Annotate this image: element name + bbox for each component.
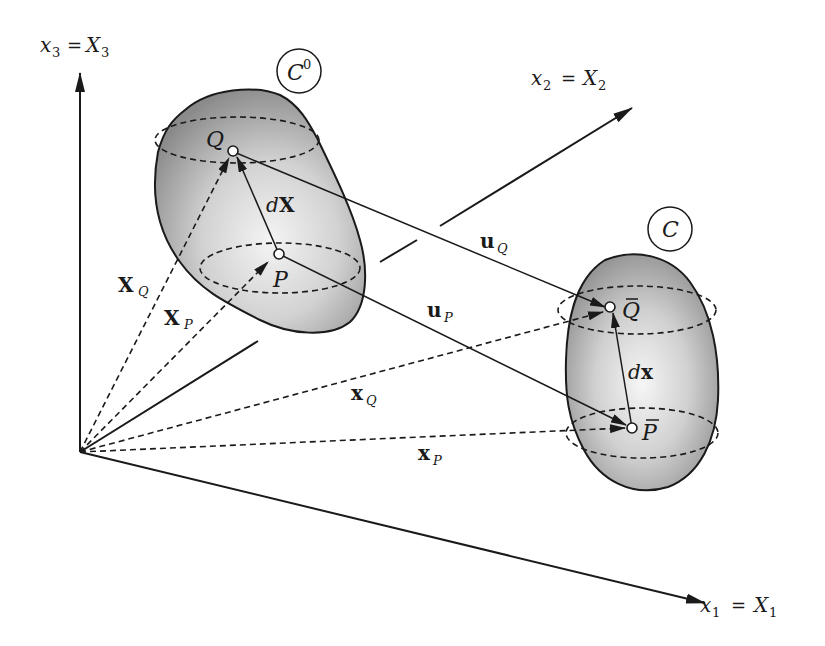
svg-text:x: x xyxy=(700,593,711,617)
svg-text:x: x xyxy=(641,360,654,384)
label-xP: x P xyxy=(418,441,442,468)
svg-text:=: = xyxy=(731,595,746,616)
point-Q-bar xyxy=(605,302,615,312)
svg-text:X: X xyxy=(279,193,295,217)
x1-axis-label: x 1 = X 1 xyxy=(700,593,777,620)
svg-text:X: X xyxy=(118,273,134,297)
svg-text:X: X xyxy=(84,33,101,57)
label-uQ: u Q xyxy=(480,229,508,256)
svg-text:1: 1 xyxy=(769,605,777,620)
svg-text:Q: Q xyxy=(497,241,508,256)
c0-superscript: 0 xyxy=(303,57,311,72)
c0-name: C xyxy=(287,60,304,85)
svg-text:=: = xyxy=(67,35,82,56)
label-Q-bar: Q xyxy=(622,298,640,323)
svg-text:P: P xyxy=(443,310,453,325)
svg-text:x: x xyxy=(351,381,364,405)
svg-text:u: u xyxy=(480,229,495,253)
svg-text:u: u xyxy=(427,298,442,322)
vector-XQ xyxy=(80,158,229,452)
label-xQ: x Q xyxy=(351,381,377,408)
svg-text:1: 1 xyxy=(712,605,720,620)
x2-axis-label: x 2 = X 2 xyxy=(531,66,606,93)
svg-text:P: P xyxy=(432,453,442,468)
svg-text:x: x xyxy=(531,66,542,90)
svg-text:Q: Q xyxy=(622,298,640,323)
label-dx: d x xyxy=(628,360,654,384)
svg-text:2: 2 xyxy=(543,78,551,93)
svg-text:X: X xyxy=(581,66,598,90)
point-Q xyxy=(228,146,238,156)
svg-text:x: x xyxy=(418,441,431,465)
svg-text:=: = xyxy=(561,68,576,89)
point-P-bar xyxy=(627,423,637,433)
svg-text:X: X xyxy=(164,306,180,330)
vector-xQ xyxy=(80,312,603,452)
config-badge-c0: C 0 xyxy=(277,49,321,93)
svg-text:X: X xyxy=(752,593,769,617)
vector-xP xyxy=(80,428,625,452)
label-uP: u P xyxy=(427,298,453,325)
deformation-diagram: C 0 C x 3 = X 3 x 2 = X 2 x 1 = X 1 Q P … xyxy=(0,0,825,646)
label-P: P xyxy=(272,267,289,292)
svg-text:d: d xyxy=(266,193,279,217)
svg-text:Q: Q xyxy=(138,284,149,299)
point-P xyxy=(274,249,284,259)
svg-text:2: 2 xyxy=(598,78,606,93)
svg-text:3: 3 xyxy=(52,45,60,60)
svg-text:3: 3 xyxy=(101,45,109,60)
x3-axis-label: x 3 = X 3 xyxy=(40,33,109,60)
svg-text:d: d xyxy=(628,360,641,384)
svg-text:Q: Q xyxy=(366,393,377,408)
label-XP: X P xyxy=(164,306,193,332)
svg-text:P: P xyxy=(183,317,193,332)
svg-text:P: P xyxy=(641,420,658,445)
label-dX: d X xyxy=(266,193,295,217)
label-P-bar: P xyxy=(641,420,659,445)
c-name: C xyxy=(662,217,679,242)
vector-XP xyxy=(80,262,268,452)
config-badge-c: C xyxy=(648,207,692,251)
label-Q: Q xyxy=(206,127,224,152)
svg-text:x: x xyxy=(40,33,51,57)
label-XQ: X Q xyxy=(118,273,149,299)
